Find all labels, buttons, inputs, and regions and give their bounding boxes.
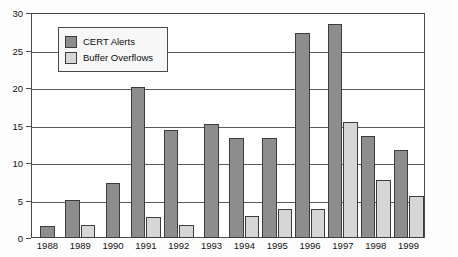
bar-buffer-overflows	[81, 225, 96, 238]
bar-buffer-overflows	[409, 196, 424, 238]
y-tick-label: 5	[18, 196, 23, 205]
x-tick-label: 1989	[70, 240, 91, 252]
y-tick-label: 15	[12, 121, 23, 130]
bar-buffer-overflows	[278, 209, 293, 238]
x-tick-label: 1996	[300, 240, 321, 252]
x-tick-label: 1994	[234, 240, 255, 252]
y-tick-mark	[26, 238, 31, 239]
legend-swatch-bof	[65, 52, 77, 64]
bar-buffer-overflows	[376, 180, 391, 239]
x-tick-label: 1992	[168, 240, 189, 252]
bar-buffer-overflows	[311, 209, 326, 238]
bar-buffer-overflows	[146, 217, 161, 238]
y-tick-label: 30	[12, 9, 23, 18]
bar-cert-alerts	[204, 124, 219, 238]
bar-cert-alerts	[295, 33, 310, 238]
bar-cert-alerts	[106, 183, 121, 238]
legend-item: Buffer Overflows	[65, 50, 161, 65]
x-tick-label: 1991	[135, 240, 156, 252]
y-axis: 051015202530	[0, 0, 31, 257]
bar-cert-alerts	[40, 226, 55, 238]
y-tick-label: 0	[18, 234, 23, 243]
legend-label: CERT Alerts	[83, 36, 135, 47]
x-tick-label: 1988	[37, 240, 58, 252]
legend-item: CERT Alerts	[65, 34, 161, 49]
bar-buffer-overflows	[245, 216, 260, 238]
x-tick-label: 1997	[332, 240, 353, 252]
x-tick-label: 1990	[103, 240, 124, 252]
x-tick-label: 1998	[365, 240, 386, 252]
bar-buffer-overflows	[179, 225, 194, 239]
y-tick-label: 20	[12, 84, 23, 93]
x-tick-label: 1999	[398, 240, 419, 252]
x-axis: 1988198919901991199219931994199519961997…	[31, 240, 425, 257]
bar-cert-alerts	[131, 87, 146, 239]
chart-legend: CERT AlertsBuffer Overflows	[58, 27, 168, 72]
x-tick-label: 1995	[267, 240, 288, 252]
bar-cert-alerts	[164, 130, 179, 238]
y-tick-label: 25	[12, 46, 23, 55]
bar-chart: 051015202530 198819891990199119921993199…	[0, 0, 458, 257]
bar-cert-alerts	[361, 136, 376, 238]
bar-cert-alerts	[65, 200, 80, 238]
bar-cert-alerts	[328, 24, 343, 239]
y-tick-label: 10	[12, 159, 23, 168]
legend-swatch-cert	[65, 36, 77, 48]
x-tick-label: 1993	[201, 240, 222, 252]
bar-buffer-overflows	[343, 122, 358, 238]
bar-cert-alerts	[229, 138, 244, 239]
legend-label: Buffer Overflows	[83, 52, 153, 63]
bar-cert-alerts	[262, 138, 277, 239]
bar-cert-alerts	[394, 150, 409, 238]
